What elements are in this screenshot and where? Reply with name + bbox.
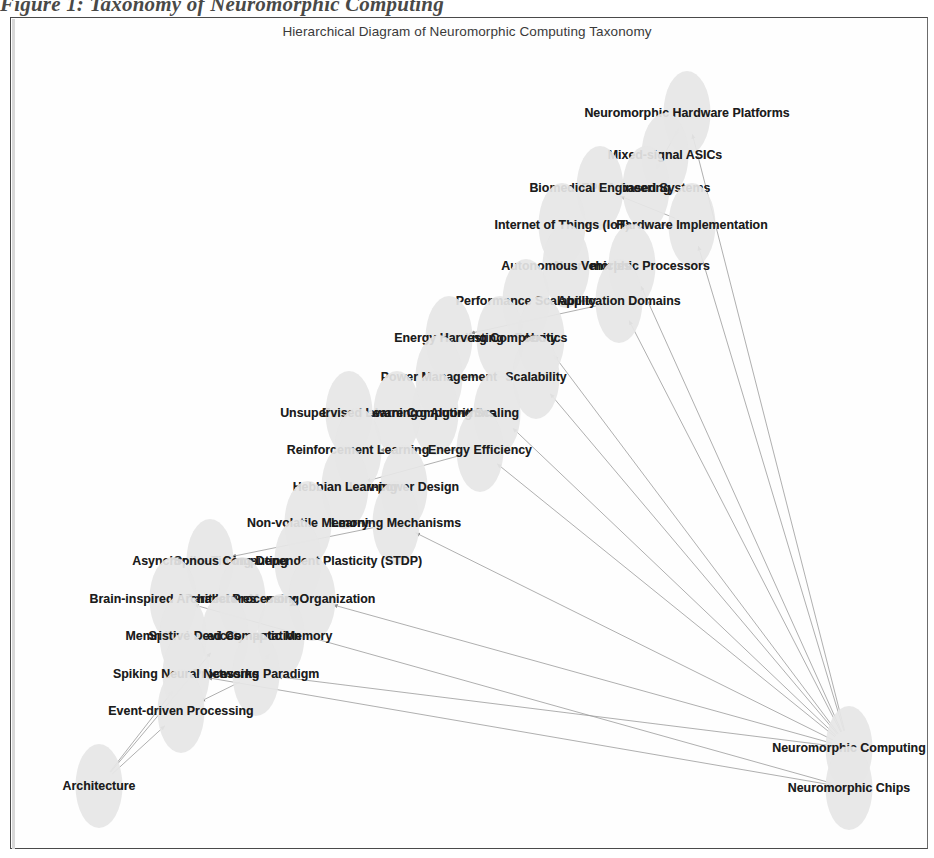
graph-edge: [550, 394, 837, 734]
node-label: Asynchronous Computing: [132, 554, 288, 568]
node-label: Energy Efficiency: [428, 443, 532, 457]
graph-canvas[interactable]: Neuromorphic Hardware PlatformsMixed-sig…: [11, 18, 927, 848]
graph-edge: [333, 605, 832, 743]
node-label: Event-driven Processing: [108, 704, 253, 718]
figure-caption: Figure 1: Taxonomy of Neuromorphic Compu…: [0, 0, 640, 16]
graph-edge: [698, 246, 844, 731]
screenshot-page: Figure 1: Taxonomy of Neuromorphic Compu…: [0, 0, 934, 858]
node-label: Scalability: [505, 370, 566, 384]
graph-edge: [497, 464, 835, 737]
graph-edge: [641, 286, 842, 731]
graph-edge: [554, 356, 838, 734]
node-label: Neuromorphic Chips: [788, 781, 911, 795]
node-label: Mixed-signal ASICs: [608, 148, 723, 162]
graph-edge: [513, 428, 836, 735]
graph-edge: [112, 726, 165, 774]
graph-edge: [629, 321, 841, 732]
graph-edge: [278, 677, 831, 746]
node-label: Neuromorphic Hardware Platforms: [584, 106, 789, 120]
graph-edge: [416, 533, 833, 740]
node-label: Architecture: [63, 779, 136, 793]
graph-edge: [208, 678, 832, 785]
